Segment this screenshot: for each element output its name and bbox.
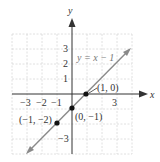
point-0-neg1	[69, 105, 74, 110]
svg-text:1: 1	[63, 73, 68, 84]
point-label-1-0: (1, 0)	[97, 82, 119, 94]
svg-text:3: 3	[112, 97, 117, 108]
x-axis-label: x	[149, 89, 155, 100]
point-label-0-neg1: (0, −1)	[75, 111, 102, 123]
svg-text:−3: −3	[58, 133, 69, 144]
svg-text:−2: −2	[36, 97, 47, 108]
svg-text:−3: −3	[20, 97, 31, 108]
x-axis-arrow-icon	[139, 91, 148, 98]
svg-text:3: 3	[63, 43, 68, 54]
svg-text:2: 2	[63, 58, 68, 69]
point-label-neg1-neg2: (−1, −2)	[19, 114, 52, 126]
chart: x y −3 −2 −1 3 3 2 1 −3 y = x − 1 (1, 0)…	[0, 0, 160, 162]
point-1-0	[83, 91, 88, 96]
x-tick-labels: −3 −2 −1 3	[20, 97, 117, 108]
axes	[12, 24, 142, 154]
y-axis-arrow-icon	[69, 18, 76, 27]
svg-text:−1: −1	[51, 97, 62, 108]
y-axis-label: y	[67, 5, 73, 16]
point-neg1-neg2	[54, 120, 59, 125]
equation-label: y = x − 1	[76, 52, 114, 63]
